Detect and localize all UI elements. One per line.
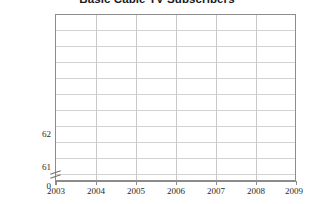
y-axis-labels: 62 61 0 — [15, 0, 51, 204]
gridline-vertical — [216, 15, 217, 180]
y-tick-label-62: 62 — [17, 130, 51, 139]
x-tick — [136, 181, 137, 185]
x-tick — [176, 181, 177, 185]
x-tick — [256, 181, 257, 185]
x-tick — [96, 181, 97, 185]
x-tick-label-2008: 2008 — [236, 186, 276, 196]
gridline-vertical — [256, 15, 257, 180]
y-axis-line — [55, 14, 56, 185]
x-tick-label-2005: 2005 — [116, 186, 156, 196]
gridline-vertical — [176, 15, 177, 180]
y-tick-label-61: 61 — [17, 163, 51, 172]
x-tick-label-2009: 2009 — [274, 186, 314, 196]
x-tick — [56, 181, 57, 185]
axis-break-icon — [50, 170, 61, 180]
x-tick — [216, 181, 217, 185]
chart-container: Basic Cable TV Subscribers 62 61 0 2003 … — [0, 0, 314, 204]
gridline-vertical — [96, 15, 97, 180]
x-tick — [296, 181, 297, 185]
plot-area — [55, 14, 296, 181]
x-tick-label-2004: 2004 — [76, 186, 116, 196]
gridline-vertical — [136, 15, 137, 180]
x-tick-label-2006: 2006 — [156, 186, 196, 196]
x-tick-label-2007: 2007 — [196, 186, 236, 196]
x-tick-label-2003: 2003 — [36, 186, 76, 196]
